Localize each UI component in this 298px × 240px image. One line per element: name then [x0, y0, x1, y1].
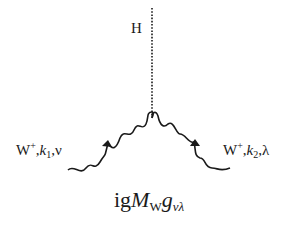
incoming-w-label: W+,k1,ν [16, 141, 62, 160]
formula-mass-symbol: M [131, 187, 149, 212]
higgs-symbol: H [131, 20, 142, 36]
vertex-factor-formula: igMWgνλ [0, 189, 298, 213]
outgoing-w-label: W+,k2,λ [223, 141, 269, 160]
w-boson-outgoing-line [152, 112, 230, 169]
momentum-arrow-incoming-icon [102, 140, 112, 147]
incoming-particle-symbol: W [16, 142, 30, 158]
w-boson-incoming-line [68, 112, 153, 171]
outgoing-lorentz-index: λ [262, 142, 269, 158]
higgs-label: H [131, 21, 142, 36]
formula-metric-symbol: g [162, 187, 173, 212]
formula-metric-subscript: νλ [173, 199, 184, 214]
outgoing-particle-symbol: W [223, 142, 237, 158]
formula-mass-subscript: W [149, 199, 161, 214]
incoming-lorentz-index: ν [55, 142, 62, 158]
formula-prefix: ig [114, 187, 131, 212]
